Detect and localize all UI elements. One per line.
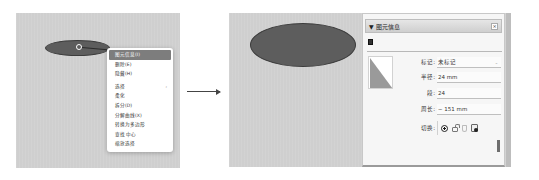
tag-dropdown[interactable]: 未标记 ⌄ bbox=[437, 57, 501, 68]
panel-header[interactable]: ▼ 图元信息 × bbox=[365, 19, 502, 33]
menu-item-explode-curve[interactable]: 分解曲线(X) bbox=[109, 111, 171, 121]
menu-item-zoom-selection[interactable]: 缩放选择 bbox=[109, 139, 171, 149]
tag-field-row: 标记: 未标记 ⌄ bbox=[403, 57, 503, 68]
entity-info-panel: ▼ 图元信息 × 标记: 未标记 ⌄ 半径: 24 mm 段: 24 周长: ~… bbox=[362, 13, 505, 167]
menu-item-delete[interactable]: 删除(E) bbox=[109, 60, 171, 70]
toggles-row: 切换: bbox=[403, 121, 503, 135]
context-menu: 图元信息(I) 删除(E) 隐藏(H) 选择 › 柔化 拆分(D) 分解曲线(X… bbox=[107, 48, 173, 152]
menu-item-find-center[interactable]: 查找 中心 bbox=[109, 130, 171, 140]
chevron-down-icon: ⌄ bbox=[495, 57, 498, 68]
divider bbox=[367, 51, 502, 52]
segments-field-row: 段: 24 bbox=[403, 88, 503, 99]
segments-label: 段: bbox=[427, 88, 435, 99]
submenu-arrow-icon: › bbox=[165, 82, 167, 92]
menu-item-label: 选择 bbox=[115, 84, 125, 89]
lock-icon[interactable] bbox=[452, 127, 458, 132]
circumference-label: 周长: bbox=[421, 104, 435, 115]
tag-value: 未标记 bbox=[438, 59, 456, 65]
material-preview-swatch[interactable] bbox=[368, 56, 393, 89]
visible-eye-icon[interactable] bbox=[441, 125, 448, 132]
radius-label: 半径: bbox=[421, 72, 435, 83]
menu-item-entity-info[interactable]: 图元信息(I) bbox=[109, 50, 171, 60]
menu-item-hide[interactable]: 隐藏(H) bbox=[109, 69, 171, 79]
circle-entity-icon bbox=[368, 39, 373, 45]
tutorial-figure: 图元信息(I) 删除(E) 隐藏(H) 选择 › 柔化 拆分(D) 分解曲线(X… bbox=[0, 0, 539, 180]
menu-item-select[interactable]: 选择 › bbox=[109, 82, 171, 92]
receive-shadows-icon[interactable] bbox=[462, 125, 467, 132]
tag-label: 标记: bbox=[421, 57, 435, 68]
menu-item-split[interactable]: 拆分(D) bbox=[109, 101, 171, 111]
panel-title: ▼ 图元信息 bbox=[369, 20, 400, 33]
segments-input[interactable]: 24 bbox=[437, 88, 501, 99]
cast-shadows-icon[interactable] bbox=[471, 124, 478, 132]
close-icon[interactable]: × bbox=[491, 23, 498, 30]
circumference-field-row: 周长: ~ 151 mm bbox=[403, 104, 503, 115]
radius-input[interactable]: 24 mm bbox=[437, 72, 501, 83]
material-triangle-icon bbox=[370, 58, 393, 89]
menu-item-convert-to-polygon[interactable]: 转换为多边形 bbox=[109, 120, 171, 130]
scrollbar-thumb[interactable] bbox=[497, 140, 500, 152]
circle-shape[interactable] bbox=[250, 23, 356, 67]
toggles-label: 切换: bbox=[421, 121, 435, 135]
toggle-icon-group bbox=[437, 121, 478, 135]
radius-field-row: 半径: 24 mm bbox=[403, 72, 503, 83]
right-arrow-icon bbox=[187, 91, 220, 92]
circumference-value: ~ 151 mm bbox=[437, 104, 501, 115]
selected-circle-shape[interactable] bbox=[45, 40, 110, 56]
radius-line bbox=[82, 47, 110, 50]
panel-dock-edge bbox=[506, 13, 511, 167]
menu-item-soften[interactable]: 柔化 bbox=[109, 91, 171, 101]
